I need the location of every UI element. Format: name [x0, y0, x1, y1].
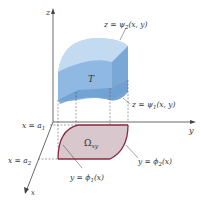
- phi2-label: y = ϕ2(x): [137, 157, 172, 167]
- phi1-label: y = ϕ1(x): [69, 173, 104, 183]
- z-axis: [51, 8, 55, 122]
- upper-surface-label: z = ψ2(x, y): [103, 20, 148, 30]
- region-omega-xy: Ωxy: [58, 125, 128, 159]
- x-axis-label: x: [31, 189, 35, 197]
- triple-integral-diagram: T y x z Ωxy z = ψ2(x, y) z = ψ1(x, y) x …: [0, 0, 201, 207]
- y-axis-label: y: [188, 126, 194, 135]
- solid-label: T: [88, 74, 95, 84]
- bound-a1-label: x = a1: [22, 121, 45, 131]
- z-axis-label: z: [45, 8, 51, 17]
- lower-surface-label: z = ψ1(x, y): [131, 100, 176, 110]
- bound-a2-label: x = a2: [8, 156, 32, 166]
